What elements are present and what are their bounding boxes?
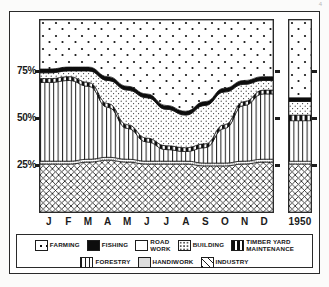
corner-page-mark: 4 <box>319 1 323 7</box>
summary-segment-fishing <box>289 98 311 102</box>
x-label-dec: D <box>254 214 274 230</box>
legend-item-building: BUILDING <box>178 240 225 251</box>
x-label-nov: N <box>235 214 255 230</box>
legend-row-2: FORESTRY HANDIWORK INDUSTRY <box>19 255 310 270</box>
summary-segment-timber <box>289 115 311 121</box>
summary-segment-building <box>289 102 311 115</box>
stacked-area-svg <box>40 20 273 212</box>
x-label-sep: S <box>196 214 216 230</box>
farming-swatch-icon <box>35 240 48 251</box>
x-label-feb: F <box>59 214 79 230</box>
timber-swatch-icon <box>231 240 244 251</box>
industry-swatch-icon <box>201 257 214 268</box>
chart-legend: FARMING FISHING ROAD WORK BUILDING TIMBE… <box>16 234 313 268</box>
legend-label-farming: FARMING <box>50 242 80 249</box>
summary-bar-1950 <box>288 19 312 213</box>
legend-item-fishing: FISHING <box>87 240 129 251</box>
summary-segment-handiwork <box>289 161 311 164</box>
x-label-jul: J <box>156 214 176 230</box>
chart-page: 4 <box>0 0 329 287</box>
x-label-apr: A <box>98 214 118 230</box>
summary-segment-forestry <box>289 121 311 161</box>
x-label-jun: J <box>137 214 157 230</box>
forestry-swatch-icon <box>80 257 93 268</box>
legend-label-timber: TIMBER YARD MAINTENANCE <box>246 239 294 252</box>
x-label-jan: J <box>39 214 59 230</box>
legend-row-1: FARMING FISHING ROAD WORK BUILDING TIMBE… <box>19 238 310 253</box>
legend-item-roadwork: ROAD WORK <box>135 239 170 252</box>
building-swatch-icon <box>178 240 191 251</box>
x-axis-month-labels: J F M A M J J A S O N D <box>39 214 274 230</box>
legend-item-timber: TIMBER YARD MAINTENANCE <box>231 239 294 252</box>
roadwork-swatch-icon <box>135 240 148 251</box>
stacked-area-plot <box>39 19 274 213</box>
legend-item-industry: INDUSTRY <box>201 257 249 268</box>
legend-label-fishing: FISHING <box>102 242 129 249</box>
summary-bar-svg <box>289 20 311 212</box>
legend-label-roadwork: ROAD WORK <box>150 239 170 252</box>
legend-item-farming: FARMING <box>35 240 80 251</box>
summary-year-label: 1950 <box>282 214 318 230</box>
legend-item-forestry: FORESTRY <box>80 257 130 268</box>
x-label-may: M <box>117 214 137 230</box>
legend-label-forestry: FORESTRY <box>95 259 130 266</box>
legend-label-handiwork: HANDIWORK <box>153 259 194 266</box>
x-label-oct: O <box>215 214 235 230</box>
summary-segment-industry <box>289 164 311 212</box>
x-label-aug: A <box>176 214 196 230</box>
legend-label-industry: INDUSTRY <box>216 259 249 266</box>
area-layer-industry <box>40 160 273 212</box>
legend-label-building: BUILDING <box>193 242 225 249</box>
x-label-mar: M <box>78 214 98 230</box>
handiwork-swatch-icon <box>138 257 151 268</box>
legend-item-handiwork: HANDIWORK <box>138 257 194 268</box>
summary-segment-farming <box>289 20 311 98</box>
fishing-swatch-icon <box>87 240 100 251</box>
